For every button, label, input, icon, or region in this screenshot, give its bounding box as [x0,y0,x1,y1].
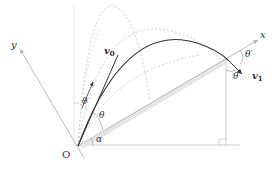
v1-label: v1 [252,70,263,83]
theta-prime-bottom-label: θ′ [233,71,240,81]
y-axis-label: y [10,39,17,50]
dashed-trajectory-3 [78,55,200,146]
dashed-trajectory-2 [78,29,220,146]
theta-inner-label: θ [99,110,105,120]
theta-prime-arc-top [240,50,243,64]
origin-label: O [62,149,70,160]
theta-prime-top-label: θ′ [245,49,252,59]
right-angle-mark [219,139,226,145]
theta-left-label: θ [82,96,88,106]
alpha-label: α [96,134,102,144]
v0-label: v0 [104,45,115,58]
x-axis-label: x [260,29,266,40]
projectile-incline-diagram: O x y v0 v1 θ θ θ′ θ′ α [0,0,278,173]
trajectory-curve [78,39,228,146]
